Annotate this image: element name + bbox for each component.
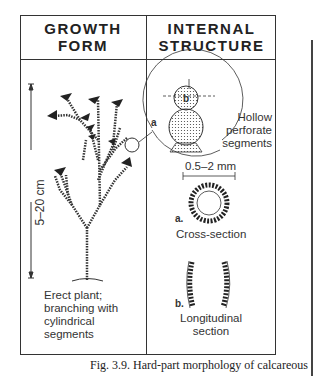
longitudinal-section-icon bbox=[190, 262, 227, 307]
inset-label-a: a bbox=[151, 116, 157, 129]
dimension-label: 0.5–2 mm bbox=[185, 160, 236, 173]
label-line: perforate bbox=[222, 124, 272, 137]
page-edge bbox=[311, 40, 313, 376]
cross-section-icon bbox=[183, 172, 235, 221]
label-line: segments bbox=[222, 137, 272, 150]
figure-caption: Fig. 3.9. Hard-part morphology of calcar… bbox=[90, 358, 313, 373]
label-line: section bbox=[176, 325, 246, 338]
description-line: Erect plant; bbox=[44, 289, 118, 302]
longitudinal-marker: b. bbox=[175, 297, 184, 310]
description-line: cylindrical bbox=[44, 315, 118, 328]
longitudinal-label: Longitudinal section bbox=[176, 312, 246, 338]
hollow-perforate-label: Hollow perforate segments bbox=[222, 111, 272, 150]
growth-description: Erect plant; branching with cylindrical … bbox=[44, 289, 118, 341]
description-line: segments bbox=[44, 328, 118, 341]
plant-tips-icon bbox=[47, 93, 132, 176]
label-line: Hollow bbox=[222, 111, 272, 124]
description-line: branching with bbox=[44, 302, 118, 315]
scale-label: 5–20 cm bbox=[34, 179, 47, 227]
inset-label-b: b bbox=[183, 92, 189, 105]
label-line: Longitudinal bbox=[176, 312, 246, 325]
magnify-circle-icon bbox=[125, 138, 139, 152]
cross-section-marker: a. bbox=[175, 212, 183, 225]
cross-section-label: Cross-section bbox=[176, 228, 246, 241]
plant-illustration-icon bbox=[53, 97, 127, 280]
